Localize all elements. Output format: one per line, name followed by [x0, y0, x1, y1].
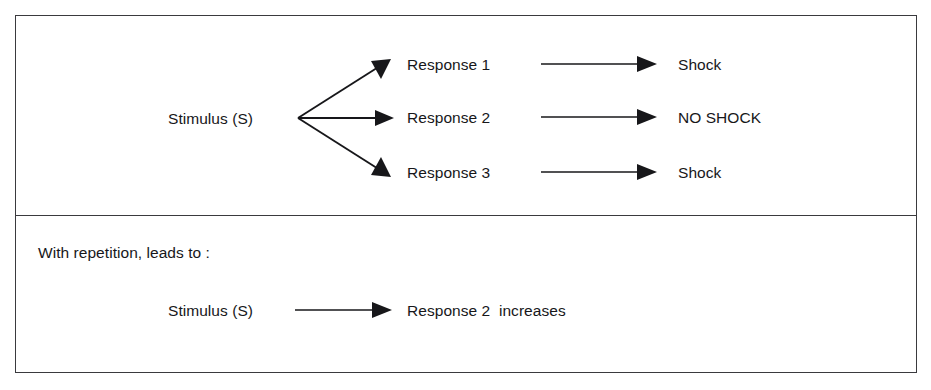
repetition-note: With repetition, leads to : — [38, 243, 210, 262]
outcome-label-1: Shock — [678, 55, 721, 74]
outcome-label-2: NO SHOCK — [678, 108, 761, 127]
result-label: Response 2 increases — [407, 301, 566, 320]
diagram-root: Stimulus (S) Response 1 Response 2 Respo… — [0, 0, 931, 390]
response-label-2: Response 2 — [407, 108, 490, 127]
response-label-3: Response 3 — [407, 163, 490, 182]
panel-divider — [15, 215, 917, 216]
outcome-label-3: Shock — [678, 163, 721, 182]
stimulus-label-top: Stimulus (S) — [168, 109, 253, 128]
stimulus-label-bottom: Stimulus (S) — [168, 301, 253, 320]
response-label-1: Response 1 — [407, 55, 490, 74]
